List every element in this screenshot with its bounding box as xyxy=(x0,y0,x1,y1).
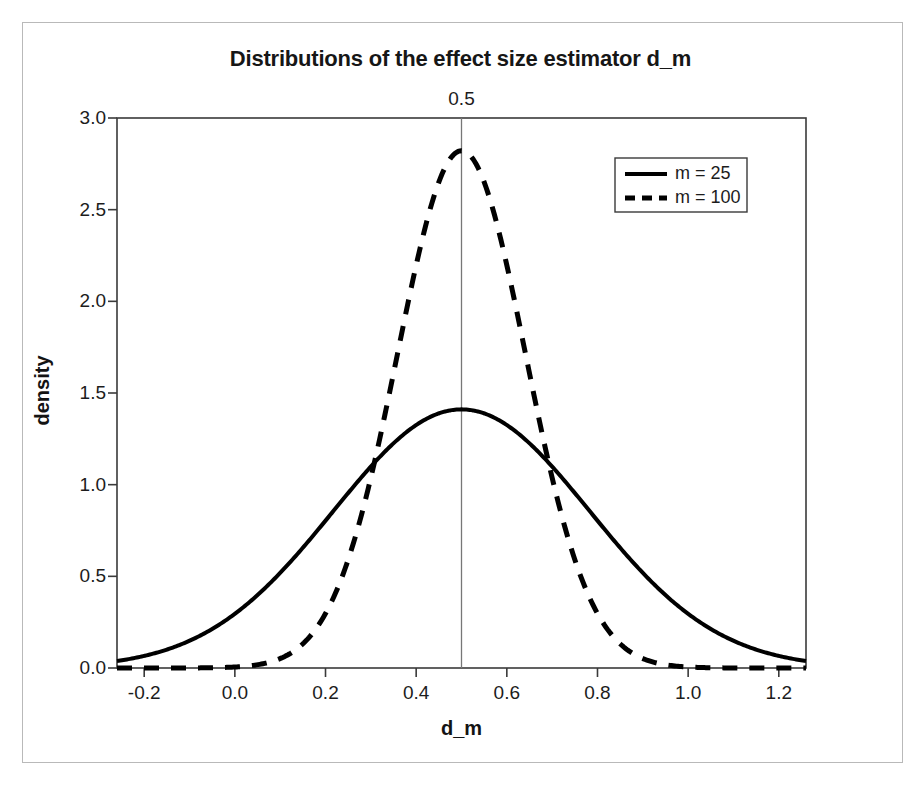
chart-title: Distributions of the effect size estimat… xyxy=(0,46,921,72)
x-tick-label: 0.6 xyxy=(494,682,520,704)
x-tick-label: -0.2 xyxy=(128,682,161,704)
y-tick-label: 0.5 xyxy=(40,565,106,587)
chart-canvas: Distributions of the effect size estimat… xyxy=(0,0,921,788)
y-tick-label: 0.0 xyxy=(40,657,106,679)
y-tick-label: 1.0 xyxy=(40,474,106,496)
legend-label-1: m = 100 xyxy=(675,187,741,208)
y-tick-label: 1.5 xyxy=(40,382,106,404)
x-tick-label: 1.0 xyxy=(675,682,701,704)
x-tick-label: 0.8 xyxy=(584,682,610,704)
x-tick-label: 1.2 xyxy=(766,682,792,704)
x-tick-label: 0.2 xyxy=(312,682,338,704)
reference-line-value-label: 0.5 xyxy=(448,88,474,110)
y-tick-label: 2.0 xyxy=(40,290,106,312)
legend-label-0: m = 25 xyxy=(675,163,731,184)
plot-area xyxy=(0,0,921,788)
x-tick-label: 0.4 xyxy=(403,682,429,704)
y-tick-label: 3.0 xyxy=(40,107,106,129)
x-axis-title: d_m xyxy=(117,717,806,740)
x-tick-label: 0.0 xyxy=(222,682,248,704)
y-tick-label: 2.5 xyxy=(40,199,106,221)
